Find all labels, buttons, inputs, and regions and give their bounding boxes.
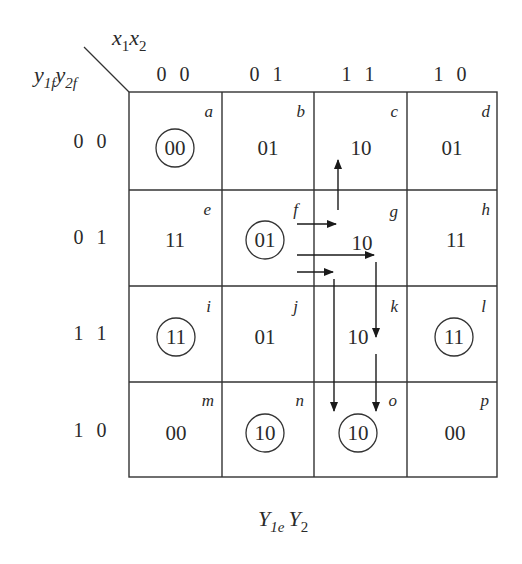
cell-o: o 10 <box>339 391 397 452</box>
column-header-11: 1 1 <box>342 63 379 85</box>
svg-text:10: 10 <box>348 421 369 445</box>
svg-text:10: 10 <box>348 325 369 349</box>
svg-text:m: m <box>202 391 214 410</box>
cell-d: d 01 <box>442 102 491 160</box>
svg-text:p: p <box>480 391 490 410</box>
cell-e: e 11 <box>165 200 212 252</box>
svg-text:11: 11 <box>165 228 185 252</box>
svg-text:01: 01 <box>442 136 463 160</box>
cell-p: p 00 <box>445 391 490 445</box>
svg-text:11: 11 <box>446 228 466 252</box>
cell-m: m 00 <box>166 391 215 445</box>
column-header-10: 1 0 <box>434 63 471 85</box>
output-variable-label: Y1eY2 <box>258 506 308 535</box>
cell-g: g 10 <box>352 202 399 255</box>
row-header-11: 1 1 <box>74 322 111 344</box>
svg-text:e: e <box>203 200 211 219</box>
cell-f: f 01 <box>246 200 300 259</box>
svg-text:01: 01 <box>255 325 276 349</box>
cell-c: c 10 <box>351 102 399 160</box>
svg-text:10: 10 <box>352 231 373 255</box>
karnaugh-map-diagram: x1x2 y1fy2f 0 0 0 1 1 1 1 0 0 0 0 1 1 1 … <box>0 0 522 564</box>
svg-text:g: g <box>390 202 399 221</box>
svg-text:f: f <box>293 200 300 219</box>
column-header-01: 0 1 <box>250 63 287 85</box>
cell-j: j 01 <box>255 297 299 349</box>
svg-text:n: n <box>296 391 305 410</box>
svg-text:11: 11 <box>166 325 186 349</box>
svg-text:10: 10 <box>351 136 372 160</box>
row-header-00: 0 0 <box>74 130 111 152</box>
svg-text:l: l <box>481 297 486 316</box>
row-header-01: 0 1 <box>74 226 111 248</box>
svg-text:00: 00 <box>166 421 187 445</box>
cell-n: n 10 <box>246 391 304 452</box>
svg-text:h: h <box>482 200 491 219</box>
column-header-00: 0 0 <box>157 63 194 85</box>
cell-a: a 00 <box>156 102 213 167</box>
svg-text:00: 00 <box>165 136 186 160</box>
cell-i: i 11 <box>157 297 211 356</box>
svg-text:j: j <box>291 297 298 316</box>
svg-text:11: 11 <box>444 325 464 349</box>
svg-text:c: c <box>390 102 398 121</box>
cell-l: l 11 <box>435 297 486 356</box>
cell-k: k 10 <box>348 297 399 349</box>
svg-text:01: 01 <box>255 228 276 252</box>
row-variable-label: y1fy2f <box>32 62 79 91</box>
svg-text:o: o <box>389 391 398 410</box>
row-header-10: 1 0 <box>74 419 111 441</box>
svg-text:a: a <box>205 102 214 121</box>
svg-text:d: d <box>482 102 491 121</box>
svg-text:01: 01 <box>258 136 279 160</box>
cell-h: h 11 <box>446 200 490 252</box>
column-variable-label: x1x2 <box>111 25 147 54</box>
svg-text:i: i <box>206 297 211 316</box>
diagram-canvas: x1x2 y1fy2f 0 0 0 1 1 1 1 0 0 0 0 1 1 1 … <box>0 0 522 564</box>
cell-b: b 01 <box>258 102 306 160</box>
svg-text:00: 00 <box>445 421 466 445</box>
svg-text:b: b <box>297 102 306 121</box>
svg-text:10: 10 <box>255 421 276 445</box>
svg-text:k: k <box>390 297 398 316</box>
